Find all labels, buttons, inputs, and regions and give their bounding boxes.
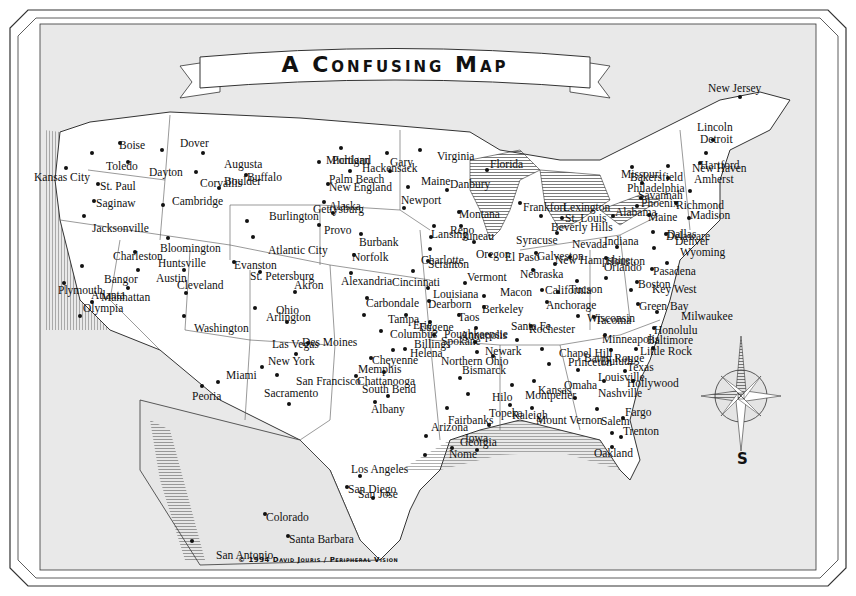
city-dot [540,347,544,351]
city-label: Atlanta [91,290,125,301]
city-label: Peoria [192,391,221,402]
city-dot [488,253,492,257]
city-dot [485,168,489,172]
city-label: New England [329,182,392,193]
city-label: Hackensack [362,163,418,174]
city-dot [382,370,386,374]
city-label: Cincinnati [392,277,440,288]
city-dot [64,166,68,170]
city-dot [738,95,742,99]
city-label: Bloomington [160,243,221,254]
city-dot [411,269,415,273]
city-dot [403,347,407,351]
city-label: Norfolk [352,252,388,263]
city-label: California [545,285,592,296]
city-label: Olympia [83,303,123,314]
city-label: Poughkeepsie [444,329,508,340]
city-dot [253,306,257,310]
city-dot [190,539,194,543]
city-label: New York [268,356,315,367]
city-dot [482,294,486,298]
city-dot [194,170,198,174]
city-label: Anchorage [546,300,596,311]
city-label: San Jose [358,489,398,500]
city-dot [287,402,291,406]
city-dot [445,406,449,410]
city-label: Pasadena [653,266,696,277]
city-label: Las Vegas [272,339,319,350]
city-dot [406,185,410,189]
city-label: Danbury [450,179,490,190]
city-dot [604,276,608,280]
city-dot [126,286,130,290]
city-label: Dearborn [428,299,471,310]
city-dot [666,176,670,180]
city-label: Little Rock [640,346,692,357]
city-label: Scranton [428,259,469,270]
city-label: Indiana [604,236,638,247]
city-dot [475,350,479,354]
city-dot [576,368,580,372]
city-dot [136,268,140,272]
city-label: Frankfort [523,202,566,213]
city-label: Huntsville [158,258,206,269]
city-dot [472,240,476,244]
city-label: St. Paul [100,181,136,192]
city-label: Santa Barbara [289,534,354,545]
city-label: Trenton [623,426,659,437]
city-dot [402,206,406,210]
city-dot [458,376,462,380]
city-label: Beverly Hills [551,222,613,233]
city-dot [610,431,614,435]
city-dot [515,338,519,342]
city-dot [200,384,204,388]
city-label: Boise [119,140,145,151]
city-dot [245,219,249,223]
city-label: Bismarck [462,365,506,376]
city-label: Orlando [604,262,642,273]
city-label: Nebraska [520,269,563,280]
city-label: Washington [194,323,249,334]
city-dot [651,230,655,234]
city-dot [216,380,220,384]
city-label: Saginaw [96,198,136,209]
city-label: Burbank [359,237,399,248]
city-label: Amherst [694,174,734,185]
city-label: Charleston [113,251,163,262]
city-label: Los Angeles [351,464,408,475]
city-dot [445,188,449,192]
city-label: Cambridge [172,196,223,207]
city-label: Arlington [266,312,311,323]
city-label: Albany [371,404,405,415]
city-label: Nashville [598,388,642,399]
city-label: Carbondale [366,298,419,309]
city-dot [518,201,522,205]
city-label: Maine [421,176,450,187]
city-label: Santa Fe [511,321,551,332]
city-dot [82,214,86,218]
city-dot [426,286,430,290]
city-dot [260,365,264,369]
city-dot [466,392,470,396]
city-label: San Antonio [216,550,273,561]
city-label: Wyoming [680,247,725,258]
city-label: Nevada [572,239,607,250]
city-dot [161,203,165,207]
city-dot [160,148,164,152]
city-dot [539,214,543,218]
city-dot [432,333,436,337]
city-label: Augusta [224,159,262,170]
city-dot [424,434,428,438]
city-dot [201,151,205,155]
city-label: Nome [449,449,477,460]
city-label: Atlantic City [268,245,328,256]
city-dot [166,236,170,240]
city-label: Lincoln [697,122,733,133]
city-label: Memphis [358,364,401,375]
city-label: New Jersey [708,83,761,94]
city-dot [634,347,638,351]
city-dot [348,169,352,173]
city-dot [385,151,389,155]
city-label: Virginia [437,151,474,162]
city-dot [655,310,659,314]
